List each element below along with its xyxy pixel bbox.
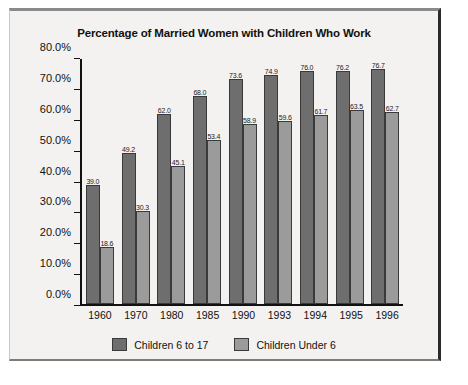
bar-value-label: 45.1 xyxy=(172,159,185,166)
bar-groups: 39.018.649.230.362.045.168.053.473.658.9… xyxy=(82,59,403,304)
bar-group: 76.762.7 xyxy=(367,59,403,304)
bar: 63.5 xyxy=(350,110,364,304)
x-axis-label: 1990 xyxy=(226,309,262,321)
y-axis-tick-label: 0.0% xyxy=(46,288,71,300)
y-axis-tick-label: 20.0% xyxy=(40,226,71,238)
legend-label: Children 6 to 17 xyxy=(134,339,208,351)
scanned-page: Percentage of Married Women with Childre… xyxy=(0,0,468,385)
y-axis-tick xyxy=(74,212,80,213)
bar: 76.2 xyxy=(336,71,350,304)
y-axis-tick xyxy=(74,243,80,244)
bar: 39.0 xyxy=(86,185,100,304)
y-axis-tick xyxy=(74,58,80,59)
bar-value-label: 76.7 xyxy=(372,62,385,69)
bar-value-label: 30.3 xyxy=(136,204,149,211)
bar-value-label: 73.6 xyxy=(229,72,242,79)
bar: 62.0 xyxy=(157,114,171,304)
bar-value-label: 49.2 xyxy=(122,146,135,153)
bar: 76.0 xyxy=(300,71,314,304)
bar-value-label: 62.7 xyxy=(386,105,399,112)
bar: 49.2 xyxy=(122,153,136,304)
bar-value-label: 76.0 xyxy=(300,64,313,71)
y-axis-tick xyxy=(74,182,80,183)
bar-group: 62.045.1 xyxy=(153,59,189,304)
bar: 58.9 xyxy=(243,124,257,304)
bar: 59.6 xyxy=(278,121,292,304)
bar-value-label: 76.2 xyxy=(336,64,349,71)
bar-group: 39.018.6 xyxy=(82,59,118,304)
y-axis-tick-label: 80.0% xyxy=(40,41,71,53)
bar: 74.9 xyxy=(264,75,278,304)
y-axis-tick-label: 70.0% xyxy=(40,72,71,84)
bar: 53.4 xyxy=(207,140,221,304)
bar: 30.3 xyxy=(136,211,150,304)
bar: 45.1 xyxy=(171,166,185,304)
bar-group: 74.959.6 xyxy=(260,59,296,304)
bar-group: 49.230.3 xyxy=(118,59,154,304)
bar-value-label: 63.5 xyxy=(350,103,363,110)
x-axis-labels: 196019701980198519901993199419951996 xyxy=(82,309,405,321)
bar: 68.0 xyxy=(193,96,207,304)
x-axis-label: 1996 xyxy=(369,309,405,321)
bar-value-label: 62.0 xyxy=(158,107,171,114)
y-axis-tick-label: 60.0% xyxy=(40,103,71,115)
bar-group: 76.263.5 xyxy=(332,59,368,304)
y-axis-tick xyxy=(74,274,80,275)
bar-value-label: 59.6 xyxy=(279,114,292,121)
bar-group: 76.061.7 xyxy=(296,59,332,304)
plot-area: 0.0%10.0%20.0%30.0%40.0%50.0%60.0%70.0%8… xyxy=(80,59,403,306)
x-axis-line xyxy=(80,304,403,306)
bar: 62.7 xyxy=(385,112,399,304)
chart-legend: Children 6 to 17Children Under 6 xyxy=(10,338,438,351)
y-axis-tick-label: 30.0% xyxy=(40,195,71,207)
x-axis-label: 1993 xyxy=(261,309,297,321)
y-axis-tick-label: 50.0% xyxy=(40,134,71,146)
bar-value-label: 39.0 xyxy=(86,178,99,185)
bar-group: 68.053.4 xyxy=(189,59,225,304)
y-axis-tick xyxy=(74,89,80,90)
legend-label: Children Under 6 xyxy=(256,339,335,351)
y-axis-tick xyxy=(74,120,80,121)
bar-value-label: 53.4 xyxy=(207,133,220,140)
bar: 73.6 xyxy=(229,79,243,304)
y-axis-tick xyxy=(74,151,80,152)
bar: 76.7 xyxy=(371,69,385,304)
legend-swatch xyxy=(234,338,249,351)
bar-value-label: 18.6 xyxy=(100,240,113,247)
bar-group: 73.658.9 xyxy=(225,59,261,304)
x-axis-label: 1995 xyxy=(333,309,369,321)
y-axis-tick xyxy=(74,305,80,306)
page-caption xyxy=(150,374,468,385)
y-axis-tick-label: 40.0% xyxy=(40,165,71,177)
bar-value-label: 74.9 xyxy=(265,68,278,75)
y-axis-tick-label: 10.0% xyxy=(40,257,71,269)
legend-item: Children Under 6 xyxy=(234,338,335,351)
bar: 18.6 xyxy=(100,247,114,304)
chart-canvas: Percentage of Married Women with Childre… xyxy=(10,11,438,359)
legend-swatch xyxy=(112,338,127,351)
bar-value-label: 58.9 xyxy=(243,117,256,124)
chart-frame: Percentage of Married Women with Childre… xyxy=(9,8,441,361)
x-axis-label: 1994 xyxy=(297,309,333,321)
bar: 61.7 xyxy=(314,115,328,304)
x-axis-label: 1985 xyxy=(190,309,226,321)
chart-title: Percentage of Married Women with Childre… xyxy=(10,27,438,39)
bar-value-label: 68.0 xyxy=(193,89,206,96)
bar-value-label: 61.7 xyxy=(314,108,327,115)
x-axis-label: 1980 xyxy=(154,309,190,321)
x-axis-label: 1960 xyxy=(82,309,118,321)
legend-item: Children 6 to 17 xyxy=(112,338,208,351)
x-axis-label: 1970 xyxy=(118,309,154,321)
